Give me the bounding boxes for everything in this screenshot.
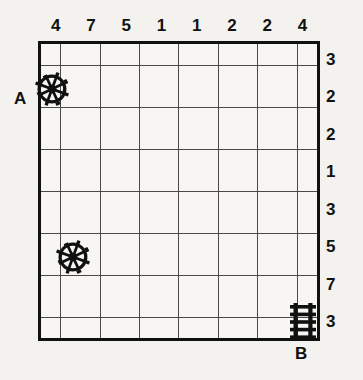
grid-cell-r5c2[interactable] [61, 191, 100, 233]
grid-cell-r4c6[interactable] [218, 149, 257, 191]
grid-cell-r8c7[interactable] [258, 317, 297, 338]
grid-cell-r3c7[interactable] [258, 107, 297, 149]
grid-cell-r7c3[interactable] [100, 275, 139, 317]
row-clue-7: 7 [326, 266, 352, 304]
table-row [41, 317, 317, 338]
grid-cell-r8c2[interactable] [61, 317, 100, 338]
grid-cell-r3c2[interactable] [61, 107, 100, 149]
grid-cell-r4c2[interactable] [61, 149, 100, 191]
grid-cell-r2c8[interactable] [297, 65, 317, 107]
endpoint-label-a: A [14, 90, 26, 107]
grid-cell-r2c2[interactable] [61, 65, 100, 107]
grid-cell-r7c1[interactable] [41, 275, 61, 317]
grid-cell-r4c7[interactable] [258, 149, 297, 191]
grid-cell-r6c7[interactable] [258, 233, 297, 275]
grid-cell-r5c4[interactable] [140, 191, 179, 233]
grid-cell-r6c5[interactable] [179, 233, 218, 275]
table-row [41, 44, 317, 65]
endpoint-label-b: B [295, 345, 307, 362]
grid-cell-r3c1[interactable] [41, 107, 61, 149]
grid-table [41, 44, 317, 338]
grid-cell-r3c4[interactable] [140, 107, 179, 149]
grid-cell-r6c2[interactable] [61, 233, 100, 275]
grid-cell-r1c4[interactable] [140, 44, 179, 65]
grid-cell-r5c3[interactable] [100, 191, 139, 233]
row-clues: 3 2 2 1 3 5 7 3 [326, 41, 352, 341]
row-clue-4: 1 [326, 154, 352, 192]
grid-cell-r2c6[interactable] [218, 65, 257, 107]
grid-cells [41, 44, 317, 338]
grid-cell-r1c5[interactable] [179, 44, 218, 65]
table-row [41, 275, 317, 317]
grid-cell-r5c5[interactable] [179, 191, 218, 233]
table-row [41, 233, 317, 275]
grid-cell-r4c1[interactable] [41, 149, 61, 191]
grid-cell-r7c8[interactable] [297, 275, 317, 317]
grid-cell-r1c3[interactable] [100, 44, 139, 65]
table-row [41, 149, 317, 191]
column-clues: 4 7 5 1 1 2 2 4 [38, 14, 320, 38]
puzzle-root: 4 7 5 1 1 2 2 4 3 2 2 1 3 5 7 3 [0, 0, 363, 380]
column-clue-3: 5 [109, 14, 144, 38]
row-clue-1: 3 [326, 41, 352, 79]
grid-cell-r3c6[interactable] [218, 107, 257, 149]
grid-cell-r2c3[interactable] [100, 65, 139, 107]
grid-cell-r1c8[interactable] [297, 44, 317, 65]
row-clue-6: 5 [326, 229, 352, 267]
grid-cell-r5c7[interactable] [258, 191, 297, 233]
grid-cell-r8c4[interactable] [140, 317, 179, 338]
grid-cell-r6c1[interactable] [41, 233, 61, 275]
grid-cell-r3c3[interactable] [100, 107, 139, 149]
grid-cell-r3c8[interactable] [297, 107, 317, 149]
grid-cell-r6c8[interactable] [297, 233, 317, 275]
grid-cell-r7c7[interactable] [258, 275, 297, 317]
grid-cell-r4c3[interactable] [100, 149, 139, 191]
grid-cell-r7c4[interactable] [140, 275, 179, 317]
grid-cell-r7c2[interactable] [61, 275, 100, 317]
grid-cell-r6c6[interactable] [218, 233, 257, 275]
grid-cell-r3c5[interactable] [179, 107, 218, 149]
grid-cell-r2c5[interactable] [179, 65, 218, 107]
grid-cell-r6c4[interactable] [140, 233, 179, 275]
column-clue-7: 2 [250, 14, 285, 38]
column-clue-2: 7 [73, 14, 108, 38]
grid-cell-r1c6[interactable] [218, 44, 257, 65]
table-row [41, 107, 317, 149]
grid-cell-r6c3[interactable] [100, 233, 139, 275]
grid-cell-r8c8[interactable] [297, 317, 317, 338]
grid-cell-r4c5[interactable] [179, 149, 218, 191]
row-clue-2: 2 [326, 79, 352, 117]
grid-cell-r4c8[interactable] [297, 149, 317, 191]
grid-cell-r2c7[interactable] [258, 65, 297, 107]
grid-cell-r8c5[interactable] [179, 317, 218, 338]
grid-cell-r8c3[interactable] [100, 317, 139, 338]
grid-cell-r1c1[interactable] [41, 44, 61, 65]
puzzle-grid[interactable] [38, 41, 320, 341]
column-clue-6: 2 [214, 14, 249, 38]
table-row [41, 65, 317, 107]
grid-cell-r8c1[interactable] [41, 317, 61, 338]
column-clue-1: 4 [38, 14, 73, 38]
column-clue-5: 1 [179, 14, 214, 38]
row-clue-5: 3 [326, 191, 352, 229]
grid-cell-r7c6[interactable] [218, 275, 257, 317]
grid-cell-r5c6[interactable] [218, 191, 257, 233]
grid-cell-r2c4[interactable] [140, 65, 179, 107]
grid-cell-r1c7[interactable] [258, 44, 297, 65]
table-row [41, 191, 317, 233]
grid-cell-r2c1[interactable] [41, 65, 61, 107]
grid-cell-r8c6[interactable] [218, 317, 257, 338]
grid-cell-r5c8[interactable] [297, 191, 317, 233]
column-clue-8: 4 [285, 14, 320, 38]
grid-cell-r1c2[interactable] [61, 44, 100, 65]
grid-cell-r4c4[interactable] [140, 149, 179, 191]
row-clue-8: 3 [326, 304, 352, 342]
column-clue-4: 1 [144, 14, 179, 38]
grid-cell-r7c5[interactable] [179, 275, 218, 317]
row-clue-3: 2 [326, 116, 352, 154]
grid-cell-r5c1[interactable] [41, 191, 61, 233]
